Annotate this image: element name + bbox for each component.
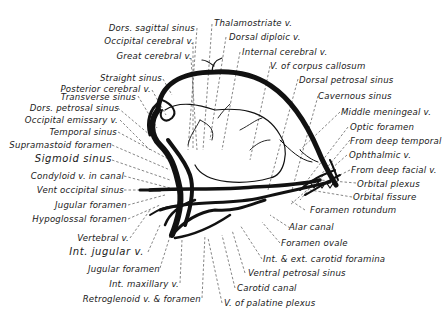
- label-vent-occipital-sinus: Vent occipital sinus: [37, 185, 124, 195]
- label-jugular-foramen-lower: Jugular foramen: [88, 264, 160, 274]
- label-hypoglossal-foramen: Hypoglossal foramen: [32, 214, 127, 224]
- label-orbital-plexus: Orbital plexus: [357, 179, 420, 189]
- label-temporal-sinus: Temporal sinus: [49, 127, 117, 137]
- label-dors-sagittal-sinus: Dors. sagittal sinus: [109, 23, 195, 33]
- label-v-of-corpus-callosum: V. of corpus callosum: [270, 61, 366, 71]
- anatomy-figure: Dors. sagittal sinus Occipital cerebral …: [0, 0, 445, 320]
- label-sigmoid-sinus: Sigmoid sinus: [35, 154, 112, 164]
- label-dors-petrosal-sinus: Dors. petrosal sinus: [30, 103, 119, 113]
- label-cavernous-sinus: Cavernous sinus: [318, 91, 392, 101]
- label-carotid-canal: Carotid canal: [237, 283, 297, 293]
- label-v-of-palatine-plexus: V. of palatine plexus: [224, 298, 315, 308]
- label-foramen-rotundum: Foramen rotundum: [310, 205, 396, 215]
- label-from-deep-temporal: From deep temporal: [350, 136, 442, 146]
- label-thalamostriate-v: Thalamostriate v.: [214, 18, 292, 28]
- label-condyloid-v-in-canal: Condyloid v. in canal: [31, 171, 124, 181]
- label-ventral-petrosal-sinus: Ventral petrosal sinus: [248, 268, 346, 278]
- label-retroglenoid-v-foramen: Retroglenoid v. & foramen: [83, 294, 201, 304]
- label-jugular-foramen-upper: Jugular foramen: [55, 200, 127, 210]
- label-int-ext-carotid-foramina: Int. & ext. carotid foramina: [263, 254, 385, 264]
- label-vertebral-v: Vertebral v.: [77, 233, 129, 243]
- label-optic-foramen: Optic foramen: [350, 122, 414, 132]
- label-orbital-fissure: Orbital fissure: [353, 192, 417, 202]
- label-middle-meningeal-v: Middle meningeal v.: [341, 107, 431, 117]
- label-foramen-ovale: Foramen ovale: [281, 238, 348, 248]
- label-occipital-emissary-v: Occipital emissary v.: [25, 115, 118, 125]
- label-great-cerebral-v: Great cerebral v.: [116, 51, 192, 61]
- label-int-maxillary-v: Int. maxillary v.: [109, 279, 179, 289]
- label-occipital-cerebral-v: Occipital cerebral v.: [104, 36, 194, 46]
- label-dorsal-petrosal-sinus: Dorsal petrosal sinus: [299, 75, 393, 85]
- label-ophthalmic-v: Ophthalmic v.: [349, 150, 411, 160]
- label-from-deep-facial-v: From deep facial v.: [351, 165, 437, 175]
- label-dorsal-diploic-v: Dorsal diploic v.: [229, 32, 301, 42]
- label-internal-cerebral-v: Internal cerebral v.: [242, 47, 327, 57]
- label-transverse-sinus: Transverse sinus: [61, 92, 136, 102]
- label-supramastoid-foramen: Supramastoid foramen: [9, 140, 112, 150]
- label-int-jugular-v: Int. jugular v.: [69, 247, 144, 257]
- label-straight-sinus: Straight sinus: [100, 73, 162, 83]
- label-alar-canal: Alar canal: [289, 222, 334, 232]
